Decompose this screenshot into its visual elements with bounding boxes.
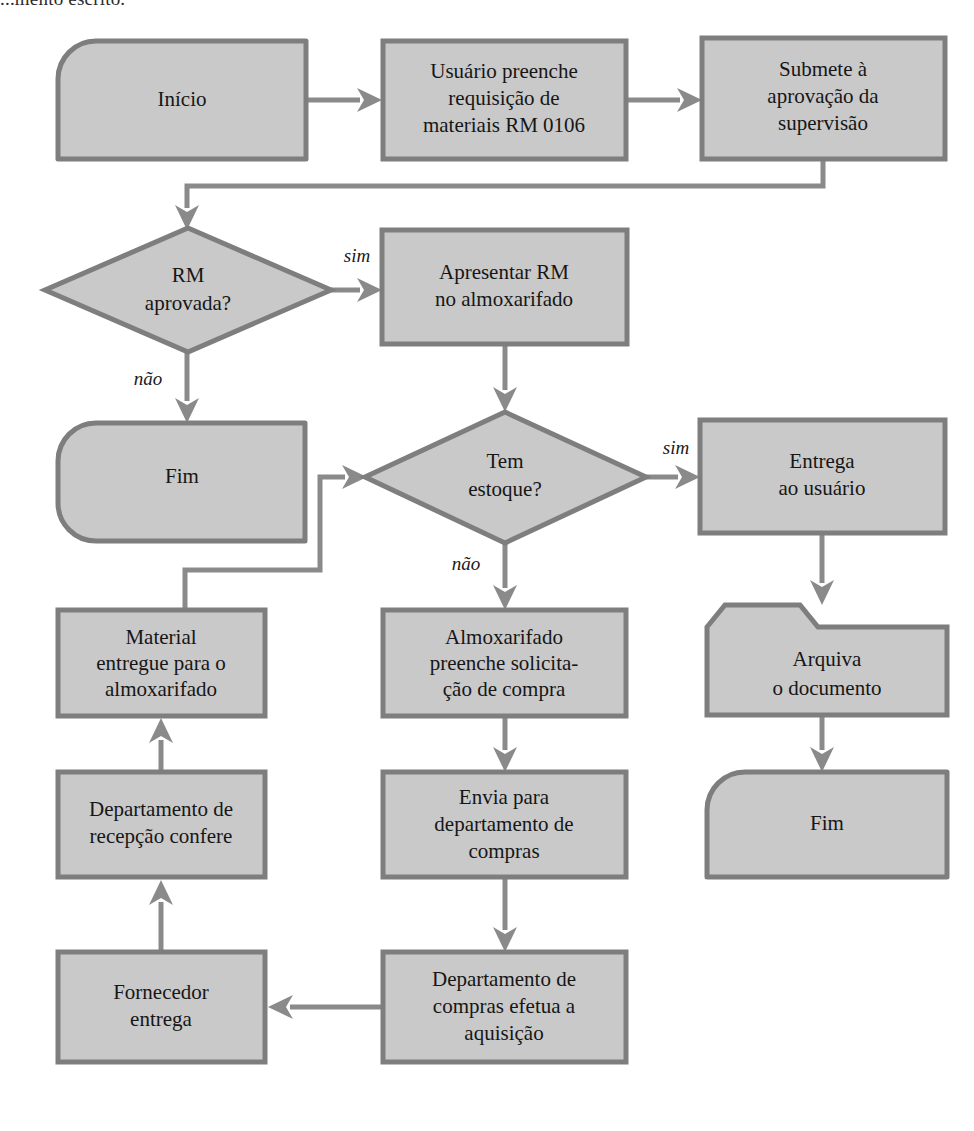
node-arquiva-line1: Arquiva [793, 647, 862, 671]
node-arquiva-documento[interactable]: Arquiva o documento [707, 605, 947, 715]
edge-arquiva-to-fim [810, 715, 834, 772]
node-submete-line2: aprovação da [767, 84, 879, 108]
node-usuario-preenche-line1: Usuário preenche [430, 59, 578, 83]
node-submete-line1: Submete à [779, 57, 868, 81]
node-recepcao-line2: recepção confere [90, 824, 233, 848]
node-rm-aprovada-decision[interactable]: RM aprovada? [45, 228, 331, 352]
node-solicitacao-line1: Almoxarifado [445, 625, 563, 649]
node-rm-aprovada-line2: aprovada? [145, 291, 231, 315]
node-recepcao-line1: Departamento de [89, 797, 233, 821]
node-material-line2: entregue para o [96, 651, 225, 675]
node-almoxarifado-solicitacao[interactable]: Almoxarifado preenche solicita- ção de c… [383, 610, 626, 716]
node-fim-nao-aprovada-label: Fim [165, 464, 199, 488]
node-solicitacao-line3: ção de compra [443, 677, 566, 701]
node-inicio-label: Início [158, 87, 207, 111]
node-arquiva-line2: o documento [772, 676, 881, 700]
edge-label-nao-tem-estoque: não [452, 553, 481, 574]
node-material-entregue[interactable]: Material entregue para o almoxarifado [58, 610, 265, 716]
node-entrega-ao-usuario[interactable]: Entrega ao usuário [700, 420, 945, 533]
node-tem-estoque-line2: estoque? [468, 477, 541, 501]
edge-recepcao-to-material [149, 718, 173, 772]
node-rm-aprovada-line1: RM [172, 263, 205, 287]
edge-label-sim-rm-aprovada: sim [344, 245, 370, 266]
node-usuario-preenche-line2: requisição de [448, 86, 559, 110]
node-inicio[interactable]: Início [58, 41, 306, 159]
edge-compras-to-fornecedor [268, 995, 383, 1019]
edge-inicio-to-preenche [306, 88, 382, 112]
node-compras-line1: Departamento de [432, 967, 576, 991]
nodes-layer: Início Usuário preenche requisição de ma… [45, 38, 947, 1062]
node-envia-line3: compras [468, 839, 539, 863]
node-material-line1: Material [125, 625, 196, 649]
node-solicitacao-line2: preenche solicita- [430, 651, 579, 675]
node-envia-line2: departamento de [434, 812, 573, 836]
node-envia-line1: Envia para [459, 785, 550, 809]
node-submete-aprovacao[interactable]: Submete à aprovação da supervisão [702, 38, 945, 159]
edge-envia-to-compras [493, 877, 517, 952]
flowchart-canvas: Início Usuário preenche requisição de ma… [0, 0, 974, 1131]
node-tem-estoque-decision[interactable]: Tem estoque? [365, 412, 646, 543]
node-apresentar-line2: no almoxarifado [435, 287, 573, 311]
node-compras-aquisicao[interactable]: Departamento de compras efetua a aquisiç… [383, 952, 626, 1062]
edge-submete-to-rm-aprovada [175, 159, 823, 230]
edge-label-sim-tem-estoque: sim [663, 437, 689, 458]
node-fornecedor-line2: entrega [130, 1007, 192, 1031]
node-entrega-line1: Entrega [789, 449, 855, 473]
edge-label-nao-rm-aprovada: não [134, 368, 163, 389]
node-usuario-preenche-line3: materiais RM 0106 [423, 113, 585, 137]
node-apresentar-line1: Apresentar RM [439, 260, 569, 284]
node-submete-line3: supervisão [778, 111, 868, 135]
edge-rm-aprovada-to-apresentar [331, 278, 382, 302]
edge-tem-estoque-to-entrega [646, 465, 700, 489]
node-apresentar-rm[interactable]: Apresentar RM no almoxarifado [382, 230, 627, 344]
edge-fornecedor-to-recepcao [149, 880, 173, 952]
edge-apresentar-to-tem-estoque [493, 344, 517, 412]
node-fim-nao-aprovada[interactable]: Fim [58, 423, 305, 541]
node-recepcao-confere[interactable]: Departamento de recepção confere [58, 772, 265, 877]
edge-rm-aprovada-to-fim [175, 352, 199, 423]
node-fornecedor-entrega[interactable]: Fornecedor entrega [58, 952, 265, 1062]
node-material-line3: almoxarifado [105, 677, 217, 701]
edge-tem-estoque-to-solicitacao [493, 543, 517, 610]
node-entrega-line2: ao usuário [779, 476, 866, 500]
node-fim-arquiva-label: Fim [810, 811, 844, 835]
node-fornecedor-line1: Fornecedor [113, 980, 209, 1004]
flowchart-page: ...mento escrito. [0, 0, 974, 1131]
node-envia-departamento[interactable]: Envia para departamento de compras [383, 772, 626, 877]
node-usuario-preenche[interactable]: Usuário preenche requisição de materiais… [383, 41, 626, 159]
node-compras-line2: compras efetua a [433, 994, 576, 1018]
edge-solicitacao-to-envia [493, 716, 517, 772]
edge-entrega-to-arquiva [810, 533, 834, 605]
node-compras-line3: aquisição [464, 1021, 543, 1045]
node-fim-arquiva[interactable]: Fim [707, 772, 947, 877]
node-tem-estoque-line1: Tem [486, 449, 523, 473]
edge-preenche-to-submete [626, 88, 702, 112]
